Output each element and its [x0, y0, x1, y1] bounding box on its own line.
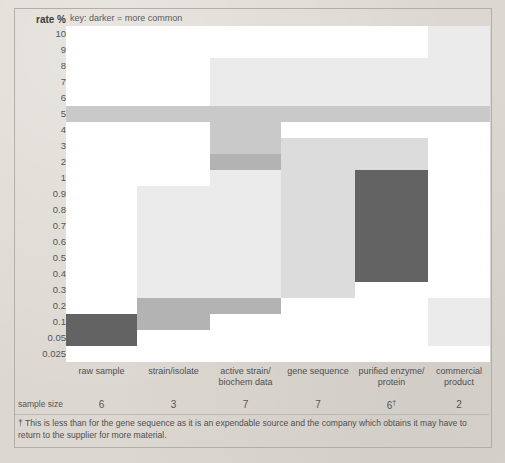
y-axis: rate % 109876543210.90.80.70.60.50.40.30… [18, 14, 66, 364]
x-axis-label: commercialproduct [420, 366, 498, 388]
y-axis-tick: 0.5 [53, 253, 66, 263]
heatmap-cell [281, 58, 355, 106]
y-axis-tick: 0.9 [53, 189, 66, 199]
x-axis-label-line: product [420, 377, 498, 388]
y-axis-title: rate % [36, 14, 66, 25]
sample-size-value: 3 [137, 399, 210, 410]
heatmap-cell [137, 106, 210, 122]
heatmap-column [281, 26, 355, 362]
x-axis-labels: raw samplestrain/isolateactive strain/bi… [66, 366, 490, 396]
sample-size-row: sample size 63776†2 [18, 399, 490, 413]
y-axis-tick: 0.8 [53, 205, 66, 215]
heatmap-cell [210, 170, 281, 298]
y-axis-tick: 10 [55, 29, 66, 39]
heatmap-cell [281, 106, 355, 122]
y-axis-tick: 0.3 [53, 285, 66, 295]
heatmap-cell [428, 26, 490, 106]
heatmap-cell [281, 138, 355, 298]
y-axis-tick: 0.025 [42, 349, 66, 359]
heatmap-cell [210, 106, 281, 122]
y-axis-tick: 0.4 [53, 269, 66, 279]
heatmap-column [210, 26, 281, 362]
heatmap-cell [428, 298, 490, 346]
heatmap-cell [355, 106, 428, 122]
sample-size-value: 2 [428, 399, 490, 410]
heatmap-cell [355, 138, 428, 170]
heatmap-cell [355, 170, 428, 282]
y-axis-tick: 0.05 [48, 333, 67, 343]
heatmap-column [428, 26, 490, 362]
heatmap-column [66, 26, 137, 362]
heatmap-cell [210, 58, 281, 106]
y-axis-tick: 0.1 [53, 317, 66, 327]
x-axis-label-line: commercial [420, 366, 498, 377]
heatmap-cell [66, 314, 137, 346]
heatmap-cell [137, 298, 210, 330]
heatmap-plot [66, 26, 490, 362]
heatmap-column [355, 26, 428, 362]
sample-size-value: 7 [281, 399, 355, 410]
y-axis-tick: 0.7 [53, 221, 66, 231]
heatmap-cell [428, 106, 490, 122]
y-axis-tick: 0.6 [53, 237, 66, 247]
heatmap-column [137, 26, 210, 362]
heatmap-cell [355, 58, 428, 106]
y-axis-tick: 0.2 [53, 301, 66, 311]
heatmap-cell [210, 122, 281, 154]
sample-size-label: sample size [18, 399, 63, 409]
sample-size-value: 6† [355, 399, 428, 411]
heatmap-cell [137, 186, 210, 298]
sample-size-value: 6 [66, 399, 137, 410]
legend-key-text: key: darker = more common [70, 13, 182, 23]
sample-size-value: 7 [210, 399, 281, 410]
footnote-divider [15, 414, 489, 415]
sample-size-dagger: † [392, 399, 396, 406]
heatmap-cell [210, 298, 281, 314]
x-axis-label-line: biochem data [202, 377, 289, 388]
heatmap-cell [210, 154, 281, 170]
heatmap-cell [66, 106, 137, 122]
footnote-text: † This is less than for the gene sequenc… [18, 418, 484, 441]
